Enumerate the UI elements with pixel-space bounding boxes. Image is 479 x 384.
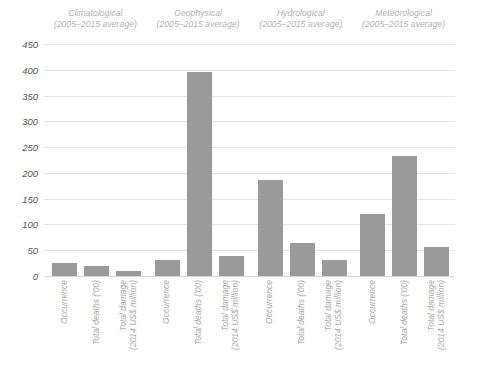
y-tick-label: 50	[27, 245, 38, 256]
x-group-geophysical: OccurrenceTotal deaths ('00)Total damage…	[147, 278, 250, 378]
group-title: Meteorological	[352, 8, 455, 19]
bar-groups	[44, 44, 455, 276]
x-tick-label-line1: Occurrence	[59, 280, 69, 324]
group-header-meteorological: Meteorological(2005–2015 average)	[352, 8, 455, 40]
y-tick-label: 250	[22, 142, 38, 153]
bar[interactable]	[392, 156, 417, 276]
bar[interactable]	[84, 266, 109, 276]
bar-slot	[155, 44, 180, 276]
y-tick-label: 200	[22, 167, 38, 178]
bar-slot	[290, 44, 315, 276]
x-tick-label-line2: (2014 US$ million)	[129, 280, 139, 350]
x-tick-label: Total damage(2014 US$ million)	[427, 280, 447, 350]
plot-area	[44, 44, 455, 276]
bar[interactable]	[360, 214, 385, 276]
x-label-slot: Total damage(2014 US$ million)	[322, 278, 347, 378]
x-label-slot: Total deaths ('00)	[392, 278, 417, 378]
y-tick-label: 100	[22, 219, 38, 230]
x-tick-label: Total deaths ('00)	[297, 280, 307, 345]
bar[interactable]	[116, 271, 141, 276]
x-tick-label-line1: Total deaths ('00)	[91, 280, 101, 345]
x-tick-label-line1: Total deaths ('00)	[399, 280, 409, 345]
x-tick-label: Occurrence	[60, 280, 70, 324]
y-tick-label: 150	[22, 193, 38, 204]
bar-group-hydrological	[250, 44, 353, 276]
x-tick-label-line1: Total damage	[221, 280, 231, 331]
bars-container	[155, 44, 241, 276]
x-tick-label: Total deaths ('00)	[92, 280, 102, 345]
bar[interactable]	[424, 247, 449, 276]
group-title: Geophysical	[147, 8, 250, 19]
x-tick-label-line1: Occurrence	[162, 280, 172, 324]
bar[interactable]	[52, 263, 77, 276]
bar-group-meteorological	[352, 44, 455, 276]
x-label-slot: Total damage(2014 US$ million)	[424, 278, 449, 378]
bar[interactable]	[322, 260, 347, 276]
x-label-slot: Total deaths ('00)	[187, 278, 212, 378]
x-tick-label: Occurrence	[265, 280, 275, 324]
bar-slot	[52, 44, 77, 276]
x-tick-label: Total damage(2014 US$ million)	[324, 280, 344, 350]
bar[interactable]	[258, 180, 283, 276]
x-tick-label-line1: Total damage	[323, 280, 333, 331]
y-tick-label: 450	[22, 39, 38, 50]
bar-slot	[392, 44, 417, 276]
bar-slot	[219, 44, 244, 276]
x-group-hydrological: OccurrenceTotal deaths ('00)Total damage…	[250, 278, 353, 378]
bar-group-climatological	[44, 44, 147, 276]
group-title: Climatological	[44, 8, 147, 19]
group-header-geophysical: Geophysical(2005–2015 average)	[147, 8, 250, 40]
group-subtitle: (2005–2015 average)	[352, 19, 455, 30]
x-tick-label: Total deaths ('00)	[400, 280, 410, 345]
x-tick-label: Occurrence	[163, 280, 173, 324]
x-group-meteorological: OccurrenceTotal deaths ('00)Total damage…	[352, 278, 455, 378]
y-tick-label: 400	[22, 64, 38, 75]
group-subtitle: (2005–2015 average)	[250, 19, 353, 30]
disaster-type-bar-chart: Climatological(2005–2015 average)Geophys…	[0, 0, 479, 384]
x-label-slot: Occurrence	[52, 278, 77, 378]
x-tick-label-line2: (2014 US$ million)	[334, 280, 344, 350]
x-tick-label: Occurrence	[368, 280, 378, 324]
x-tick-label-line1: Total damage	[426, 280, 436, 331]
bar[interactable]	[290, 243, 315, 277]
group-header-row: Climatological(2005–2015 average)Geophys…	[44, 8, 455, 40]
bar-slot	[360, 44, 385, 276]
group-subtitle: (2005–2015 average)	[147, 19, 250, 30]
bar-slot	[322, 44, 347, 276]
x-tick-label-line2: (2014 US$ million)	[231, 280, 241, 350]
group-header-hydrological: Hydrological(2005–2015 average)	[250, 8, 353, 40]
x-label-slot: Occurrence	[155, 278, 180, 378]
x-group-climatological: OccurrenceTotal deaths ('00)Total damage…	[44, 278, 147, 378]
y-axis-labels: 450400350300250200150100500	[0, 44, 38, 276]
bars-container	[258, 44, 344, 276]
x-tick-label-line1: Occurrence	[367, 280, 377, 324]
group-header-climatological: Climatological(2005–2015 average)	[44, 8, 147, 40]
x-tick-label-line2: (2014 US$ million)	[437, 280, 447, 350]
bar[interactable]	[219, 256, 244, 276]
x-label-slot: Total damage(2014 US$ million)	[116, 278, 141, 378]
y-tick-label: 300	[22, 116, 38, 127]
x-label-slot: Total damage(2014 US$ million)	[219, 278, 244, 378]
group-title: Hydrological	[250, 8, 353, 19]
bar-slot	[84, 44, 109, 276]
bars-container	[360, 44, 446, 276]
x-label-slot: Occurrence	[258, 278, 283, 378]
bar-slot	[187, 44, 212, 276]
x-tick-label-line1: Occurrence	[264, 280, 274, 324]
x-tick-label: Total deaths ('00)	[195, 280, 205, 345]
bar-group-geophysical	[147, 44, 250, 276]
bar-slot	[116, 44, 141, 276]
y-tick-label: 350	[22, 90, 38, 101]
x-tick-label-line1: Total deaths ('00)	[194, 280, 204, 345]
x-tick-label-line1: Total deaths ('00)	[296, 280, 306, 345]
bar-slot	[258, 44, 283, 276]
x-label-slot: Total deaths ('00)	[290, 278, 315, 378]
bar[interactable]	[155, 260, 180, 276]
x-tick-label: Total damage(2014 US$ million)	[119, 280, 139, 350]
x-label-slot: Total deaths ('00)	[84, 278, 109, 378]
x-label-slot: Occurrence	[360, 278, 385, 378]
x-tick-label: Total damage(2014 US$ million)	[222, 280, 242, 350]
bar[interactable]	[187, 72, 212, 276]
bars-container	[52, 44, 138, 276]
axis-baseline	[44, 276, 455, 277]
